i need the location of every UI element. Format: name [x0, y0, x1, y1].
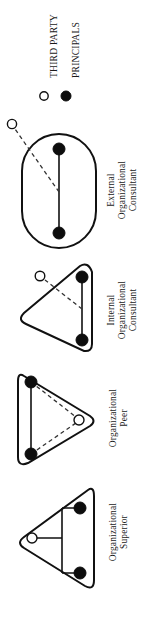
third-party-node [35, 271, 45, 281]
principal-node [74, 502, 86, 514]
principal-node [76, 271, 88, 283]
caption-line: Organizational [108, 358, 119, 478]
filled-circle-icon [61, 91, 71, 101]
diagram-superior-graphic [0, 476, 105, 601]
caption-line: Organizational [117, 130, 128, 250]
diagram-external-caption: External Organizational Consultant [106, 130, 140, 250]
caption-line: Organizational [108, 472, 119, 592]
diagram-superior-caption: Organizational Superior [108, 472, 130, 592]
diagram-internal-graphic [0, 252, 105, 364]
third-party-node [27, 533, 37, 543]
diagram-peer-caption: Organizational Peer [108, 358, 130, 478]
caption-line: Superior [119, 472, 130, 592]
caption-line: External [106, 130, 117, 250]
principal-node [76, 334, 88, 346]
legend-label-third-party: THIRD PARTY [48, 14, 59, 78]
legend-label-principals: PRINCIPALS [70, 22, 81, 78]
principal-node [25, 376, 37, 388]
principal-node [53, 143, 65, 155]
caption-line: Internal [106, 250, 117, 370]
principal-link-bracket [36, 508, 78, 573]
caption-line: Consultant [128, 250, 139, 370]
third-party-node [7, 119, 16, 128]
diagram-internal-caption: Internal Organizational Consultant [106, 250, 140, 370]
third-party-link [45, 280, 82, 309]
diagram-external-graphic [0, 112, 105, 257]
principal-node [25, 448, 37, 460]
hollow-circle-icon [40, 92, 48, 100]
principal-node [74, 567, 86, 579]
figure-canvas: THIRD PARTY PRINCIPALS External Organiza… [0, 0, 158, 619]
third-party-link [31, 382, 76, 417]
diagram-peer-graphic [0, 362, 105, 480]
principal-node [53, 227, 65, 239]
third-party-node [74, 415, 84, 425]
legend-markers [36, 84, 76, 108]
caption-line: Consultant [128, 130, 139, 250]
caption-line: Peer [119, 358, 130, 478]
caption-line: Organizational [117, 250, 128, 370]
